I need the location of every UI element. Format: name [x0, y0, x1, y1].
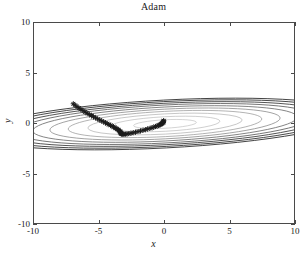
- y-tick-right-1: [291, 73, 295, 74]
- figure: Adam -10-50510 1050-5-10 x y: [0, 0, 307, 262]
- x-tick-4: [295, 220, 296, 224]
- x-axis-label: x: [0, 238, 307, 249]
- y-tick-3: [33, 174, 37, 175]
- trajectory-marker: [161, 118, 165, 122]
- y-tick-right-4: [291, 224, 295, 225]
- y-tick-0: [33, 22, 37, 23]
- x-tick-2: [164, 22, 165, 26]
- x-tick-label-4: 10: [291, 226, 300, 236]
- y-tick-2: [33, 123, 37, 124]
- y-tick-label-1: 5: [26, 68, 31, 78]
- y-tick-label-3: -5: [23, 169, 31, 179]
- x-tick-1: [99, 220, 100, 224]
- y-tick-1: [33, 73, 37, 74]
- page-title: Adam: [0, 1, 307, 12]
- y-tick-right-3: [291, 174, 295, 175]
- plot-axes: [33, 22, 295, 224]
- y-tick-4: [33, 224, 37, 225]
- x-tick-label-1: -5: [95, 226, 103, 236]
- y-axis-label: y: [2, 119, 13, 123]
- x-tick-3: [230, 220, 231, 224]
- x-tick-label-2: 0: [162, 226, 167, 236]
- plot-canvas: [34, 23, 295, 224]
- x-tick-3: [230, 22, 231, 26]
- y-tick-label-2: 0: [26, 118, 31, 128]
- y-tick-right-2: [291, 123, 295, 124]
- y-tick-label-4: -10: [18, 219, 30, 229]
- y-tick-label-0: 10: [21, 17, 30, 27]
- x-tick-2: [164, 220, 165, 224]
- x-tick-1: [99, 22, 100, 26]
- y-tick-right-0: [291, 22, 295, 23]
- x-tick-4: [295, 22, 296, 26]
- x-tick-label-3: 5: [227, 226, 232, 236]
